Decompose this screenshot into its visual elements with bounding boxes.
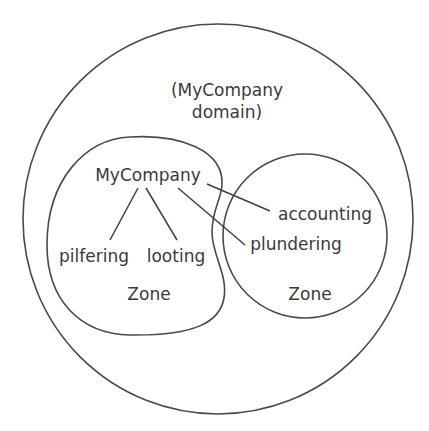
node-looting: looting <box>147 246 205 266</box>
left-zone-label: Zone <box>127 284 170 304</box>
node-mycompany: MyCompany <box>95 165 201 185</box>
node-pilfering: pilfering <box>59 246 129 266</box>
right-zone-label: Zone <box>288 284 331 304</box>
domain-diagram: (MyCompany domain) MyCompany pilfering l… <box>0 0 429 431</box>
node-plundering: plundering <box>250 234 342 254</box>
edge-mycompany-looting <box>146 188 177 240</box>
node-accounting: accounting <box>278 204 372 224</box>
domain-label-line1: (MyCompany <box>171 80 283 100</box>
domain-label-line2: domain) <box>192 102 262 122</box>
edge-mycompany-pilfering <box>110 188 138 240</box>
